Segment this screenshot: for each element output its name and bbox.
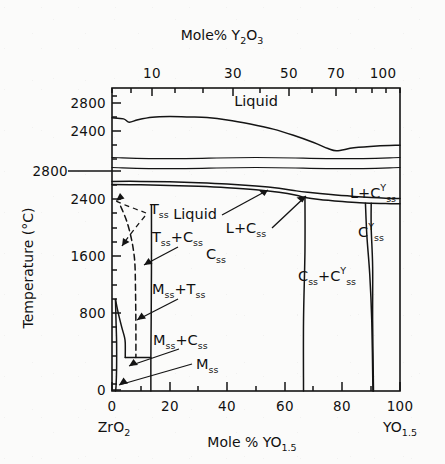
label-tss-plus-css-sub2: ss	[193, 237, 203, 248]
label-css-y-sup: Y	[367, 221, 374, 232]
label-mss-plus-css-sub2: ss	[198, 340, 208, 351]
label-css-prefix: C	[206, 246, 216, 262]
bottom-tick-label: 20	[161, 398, 179, 414]
label-mss-plus-tss-prefix: M	[152, 281, 165, 297]
phase-diagram-figure: Mole% Y2O3 10305070100 28002400280024001…	[0, 0, 445, 464]
bottom-axis-title-sub: 1.5	[282, 442, 297, 453]
bottom-tick-label: 100	[387, 398, 414, 414]
label-css-plus-css-y-sub2: ss	[346, 276, 356, 287]
phase-diagram-svg: Mole% Y2O3 10305070100 28002400280024001…	[0, 0, 445, 464]
label-css-y-prefix: C	[358, 224, 368, 240]
label-mss-sub: ss	[209, 364, 219, 375]
top-tick-label: 10	[143, 65, 161, 81]
label-mss-plus-css-plus: +C	[175, 332, 197, 348]
label-tss-plus-css-prefix: T	[151, 229, 161, 245]
label-liquid-lower: Liquid	[173, 206, 217, 222]
top-axis-title-mid: O	[246, 27, 257, 43]
right-endmember-prefix: YO	[382, 419, 402, 435]
label-css-plus-css-y-prefix: C	[298, 268, 308, 284]
top-tick-label: 50	[280, 65, 298, 81]
label-tss-sub: ss	[159, 209, 169, 220]
left-endmember-sub: 2	[124, 427, 130, 438]
left-tick-label: 0	[97, 382, 106, 398]
top-tick-label: 30	[224, 65, 242, 81]
y-axis-title: Temperature (°C)	[20, 208, 36, 330]
label-l-plus-css-sub: ss	[256, 228, 266, 239]
label-css-sub: ss	[216, 254, 226, 265]
label-tss-plus-css-sub: ss	[161, 237, 171, 248]
label-l-plus-css-y-sup: Y	[379, 182, 386, 193]
label-liquid-upper: Liquid	[234, 93, 278, 109]
bottom-axis-title-prefix: Mole % YO	[207, 434, 281, 450]
label-l-plus-css-y-sub: ss	[386, 193, 396, 204]
top-tick-label: 100	[370, 65, 397, 81]
left-tick-label: 800	[79, 305, 106, 321]
left-tick-label: 2400	[70, 191, 106, 207]
left-tick-label: 2800	[32, 163, 68, 179]
label-css-plus-css-y-plus: +C	[318, 268, 340, 284]
left-tick-label: 1600	[70, 248, 106, 264]
label-l-plus-css-y-prefix: L+C	[350, 185, 380, 201]
bottom-tick-label: 60	[276, 398, 294, 414]
label-mss-plus-css-sub: ss	[166, 340, 176, 351]
right-endmember-sub: 1.5	[402, 427, 417, 438]
top-axis-title-prefix: Mole% Y	[181, 27, 241, 43]
label-css-plus-css-y-sub: ss	[308, 276, 318, 287]
label-tss-plus-css-plus: +C	[171, 229, 193, 245]
left-tick-label: 2800	[70, 95, 106, 111]
label-mss-plus-tss-plus: +T	[174, 281, 195, 297]
label-mss-plus-tss-sub: ss	[165, 289, 175, 300]
bottom-tick-label: 80	[333, 398, 351, 414]
top-axis-title-sub2: 3	[257, 35, 263, 46]
left-tick-label: 2400	[70, 123, 106, 139]
label-css-y-sub: ss	[374, 232, 384, 243]
label-l-plus-css-prefix: L+C	[226, 220, 256, 236]
label-mss-plus-css-prefix: M	[153, 332, 166, 348]
label-mss-plus-tss-sub2: ss	[195, 289, 205, 300]
top-tick-label: 70	[327, 65, 345, 81]
bottom-tick-label: 40	[218, 398, 236, 414]
y-axis-title-text: Temperature (°C)	[20, 208, 36, 330]
bottom-tick-label: 0	[108, 398, 117, 414]
left-endmember-prefix: ZrO	[98, 419, 124, 435]
label-css-plus-css-y-sup: Y	[339, 265, 346, 276]
label-mss-prefix: M	[196, 356, 209, 372]
label-tss-prefix: T	[149, 201, 159, 217]
